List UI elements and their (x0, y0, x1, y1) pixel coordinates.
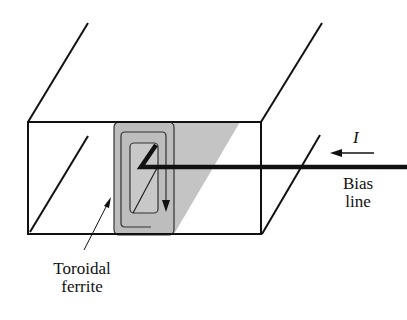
ferrite-pointer-arrowhead-icon (104, 197, 111, 208)
ferrite-label-2: ferrite (44, 278, 120, 296)
shaded-cross-section (174, 122, 240, 234)
bias-line-label-2: line (328, 193, 388, 211)
current-arrowhead-icon (330, 149, 342, 157)
waveguide-edge-right (261, 23, 322, 122)
waveguide-edge-left (28, 23, 88, 122)
current-label: I (353, 129, 359, 147)
ferrite-hole (130, 143, 158, 213)
ferrite-label-1: Toroidal (44, 260, 120, 278)
waveguide-inner-edge-left (30, 136, 88, 232)
ferrite-pointer (84, 201, 109, 250)
bias-line-label-1: Bias (328, 175, 388, 193)
waveguide-inner-edge-right (262, 135, 320, 234)
